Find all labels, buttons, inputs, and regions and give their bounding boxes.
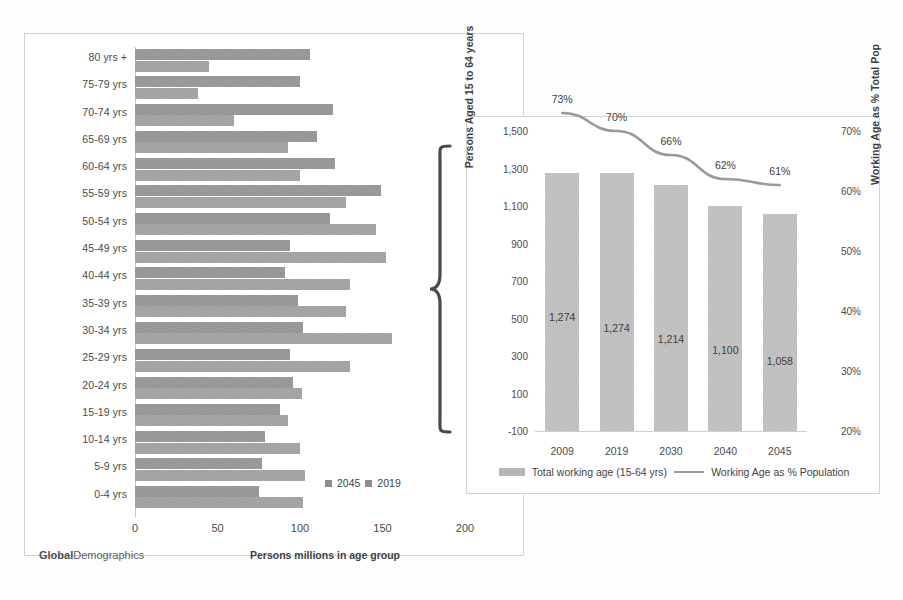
inset-percent-label: 70% xyxy=(606,111,627,123)
inset-left-tick: -100 xyxy=(508,426,528,437)
pyramid-bar-2045 xyxy=(135,131,317,142)
pyramid-bar-2045 xyxy=(135,267,285,278)
pyramid-category-label: 60-64 yrs xyxy=(82,160,127,172)
pyramid-category-label: 15-19 yrs xyxy=(82,406,127,418)
inset-right-tick: 60% xyxy=(841,186,861,197)
pyramid-bar-2019 xyxy=(135,443,300,454)
pyramid-row: 10-14 yrs xyxy=(135,429,465,456)
inset-right-tick: 40% xyxy=(841,306,861,317)
pyramid-row: 60-64 yrs xyxy=(135,156,465,183)
pyramid-bar-2019 xyxy=(135,252,386,263)
inset-left-tick: 900 xyxy=(511,238,528,249)
inset-right-tick: 50% xyxy=(841,246,861,257)
inset-left-tick: 300 xyxy=(511,351,528,362)
inset-left-tick: 500 xyxy=(511,313,528,324)
inset-column xyxy=(708,206,742,431)
pyramid-bar-2045 xyxy=(135,458,262,469)
inset-right-tick: 20% xyxy=(841,426,861,437)
pyramid-row: 40-44 yrs xyxy=(135,265,465,292)
pyramid-bar-2045 xyxy=(135,349,290,360)
pyramid-bar-2045 xyxy=(135,76,300,87)
inset-percent-label: 73% xyxy=(552,93,573,105)
legend-label-working-age-pct: Working Age as % Population xyxy=(711,466,849,478)
inset-left-axis-title: Persons Aged 15 to 64 years xyxy=(463,0,475,197)
pyramid-row: 30-34 yrs xyxy=(135,320,465,347)
pyramid-x-tick: 150 xyxy=(373,522,391,534)
inset-percent-label: 66% xyxy=(660,135,681,147)
pyramid-row: 80 yrs + xyxy=(135,47,465,74)
legend-label-total-working-age: Total working age (15-64 yrs) xyxy=(532,466,667,478)
pyramid-row: 25-29 yrs xyxy=(135,347,465,374)
legend-label-2045: 2045 xyxy=(337,477,360,489)
pyramid-legend: 2045 2019 xyxy=(325,477,401,489)
pyramid-bar-2045 xyxy=(135,185,381,196)
legend-label-2019: 2019 xyxy=(377,477,400,489)
inset-column-value-label: 1,100 xyxy=(712,344,738,356)
watermark-bold-part: Global xyxy=(39,549,73,561)
pyramid-bar-2019 xyxy=(135,388,302,399)
pyramid-x-axis-title: Persons millions in age group xyxy=(175,549,475,561)
pyramid-category-label: 40-44 yrs xyxy=(82,269,127,281)
pyramid-bar-2045 xyxy=(135,240,290,251)
inset-column xyxy=(545,173,579,431)
pyramid-bar-2019 xyxy=(135,115,234,126)
inset-percent-label: 61% xyxy=(769,165,790,177)
inset-column xyxy=(763,214,797,431)
pyramid-x-tick: 200 xyxy=(456,522,474,534)
pyramid-row: 50-54 yrs xyxy=(135,211,465,238)
pyramid-bar-2019 xyxy=(135,361,350,372)
pyramid-row: 0-4 yrs xyxy=(135,484,465,511)
pyramid-category-label: 55-59 yrs xyxy=(82,187,127,199)
inset-column-value-label: 1,274 xyxy=(603,322,629,334)
pyramid-bar-2019 xyxy=(135,170,300,181)
inset-left-tick: 700 xyxy=(511,276,528,287)
pyramid-bar-2019 xyxy=(135,224,376,235)
pyramid-row: 55-59 yrs xyxy=(135,183,465,210)
inset-column-value-label: 1,214 xyxy=(658,333,684,345)
pyramid-bar-2019 xyxy=(135,497,303,508)
pyramid-category-label: 65-69 yrs xyxy=(82,133,127,145)
pyramid-bar-2019 xyxy=(135,279,350,290)
pyramid-bar-2045 xyxy=(135,295,298,306)
connector-brace-icon xyxy=(428,143,462,435)
pyramid-bar-2019 xyxy=(135,333,392,344)
pyramid-bar-2019 xyxy=(135,470,305,481)
pyramid-row: 65-69 yrs xyxy=(135,129,465,156)
legend-swatch-2019-icon xyxy=(365,480,372,487)
inset-x-tick: 2030 xyxy=(659,445,682,457)
inset-right-tick: 70% xyxy=(841,126,861,137)
pyramid-category-label: 80 yrs + xyxy=(89,51,127,63)
pyramid-bar-2019 xyxy=(135,61,209,72)
pyramid-category-label: 50-54 yrs xyxy=(82,215,127,227)
pyramid-row: 5-9 yrs xyxy=(135,456,465,483)
pyramid-category-label: 75-79 yrs xyxy=(82,78,127,90)
pyramid-bar-2019 xyxy=(135,306,346,317)
pyramid-category-label: 10-14 yrs xyxy=(82,433,127,445)
pyramid-row: 45-49 yrs xyxy=(135,238,465,265)
pyramid-x-tick: 0 xyxy=(132,522,138,534)
legend-bar-swatch-icon xyxy=(499,468,525,476)
inset-right-tick: 30% xyxy=(841,366,861,377)
inset-column xyxy=(654,185,688,431)
pyramid-bar-2045 xyxy=(135,322,303,333)
pyramid-bar-2019 xyxy=(135,415,288,426)
pyramid-row: 20-24 yrs xyxy=(135,375,465,402)
inset-legend: Total working age (15-64 yrs) Working Ag… xyxy=(479,466,869,478)
working-age-inset-chart: Persons Aged 15 to 64 years Working Age … xyxy=(466,116,880,494)
watermark-rest-part: Demographics xyxy=(73,549,144,561)
legend-swatch-2045-icon xyxy=(325,480,332,487)
pyramid-category-label: 0-4 yrs xyxy=(94,488,127,500)
watermark-globaldemographics: GlobalDemographics xyxy=(39,549,144,561)
pyramid-category-label: 25-29 yrs xyxy=(82,351,127,363)
pyramid-category-label: 35-39 yrs xyxy=(82,297,127,309)
pyramid-plot-area: 80 yrs +75-79 yrs70-74 yrs65-69 yrs60-64… xyxy=(135,47,465,517)
inset-right-axis-title: Working Age as % Total Pop xyxy=(869,0,881,185)
pyramid-category-label: 30-34 yrs xyxy=(82,324,127,336)
inset-x-tick: 2009 xyxy=(551,445,574,457)
pyramid-x-tick: 50 xyxy=(211,522,223,534)
pyramid-bar-2045 xyxy=(135,486,259,497)
inset-percent-label: 62% xyxy=(715,159,736,171)
pyramid-x-tick: 100 xyxy=(291,522,309,534)
legend-line-swatch-icon xyxy=(674,471,704,473)
pyramid-bar-2019 xyxy=(135,142,288,153)
